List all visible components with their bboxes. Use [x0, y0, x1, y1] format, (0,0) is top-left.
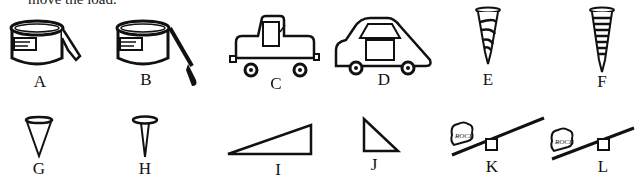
label-e: E [478, 70, 498, 90]
label-i: I [268, 160, 288, 180]
figure-f: F [585, 0, 625, 100]
label-c: C [266, 74, 286, 94]
label-h: H [135, 159, 155, 179]
label-a: A [30, 72, 50, 92]
label-j: J [364, 155, 384, 175]
figure-g: G [20, 115, 60, 182]
paint-can-screwdriver-icon [110, 0, 210, 100]
figure-b: B [110, 0, 210, 100]
figure-a: A [0, 0, 100, 100]
label-b: B [136, 70, 156, 90]
paint-can-short-lever-icon [0, 0, 100, 100]
fulcrum-box [486, 139, 497, 150]
figure-c: C [228, 0, 328, 100]
figure-h: H [126, 115, 166, 182]
fulcrum-box [598, 139, 609, 150]
label-k: K [482, 157, 502, 177]
label-l: L [593, 157, 613, 177]
label-g: G [29, 159, 49, 179]
figure-j: J [360, 115, 410, 182]
figure-d: D [330, 0, 440, 100]
figure-k: ROCK K [448, 115, 548, 182]
figure-i: I [226, 120, 316, 182]
figure-l: ROCK L [548, 115, 638, 182]
label-f: F [592, 72, 612, 92]
rock-text: ROCK [454, 132, 474, 140]
rock-text: ROCK [554, 138, 574, 146]
figure-e: E [470, 0, 510, 100]
label-d: D [374, 70, 394, 90]
